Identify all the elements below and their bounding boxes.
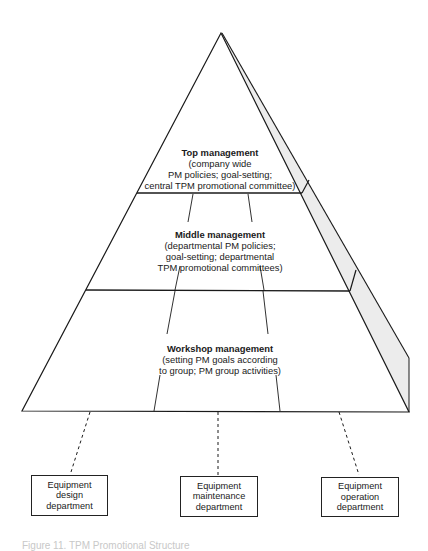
tier-middle-management: Middle management (departmental PM polic… bbox=[120, 229, 320, 273]
tier-title: Middle management bbox=[120, 229, 320, 240]
figure-caption: Figure 11. TPM Promotional Structure bbox=[22, 540, 189, 551]
department-box-design: Equipment design department bbox=[31, 475, 108, 516]
tier-title: Workshop management bbox=[120, 343, 320, 354]
tier-top-management: Top management (company wide PM policies… bbox=[120, 147, 320, 191]
connector-operation bbox=[339, 412, 359, 475]
tier-description: (company wide PM policies; goal-setting;… bbox=[120, 158, 320, 191]
tier-workshop-management: Workshop management (setting PM goals ac… bbox=[120, 343, 320, 376]
tier-title: Top management bbox=[120, 147, 320, 158]
tier-description: (setting PM goals according to group; PM… bbox=[120, 354, 320, 376]
department-box-maintenance: Equipment maintenance department bbox=[180, 476, 258, 517]
tier-description: (departmental PM policies; goal-setting;… bbox=[120, 240, 320, 273]
department-box-operation: Equipment operation department bbox=[321, 477, 399, 517]
connector-design bbox=[71, 412, 90, 472]
